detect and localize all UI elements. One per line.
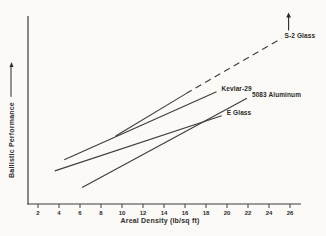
series-label-e-glass: E Glass <box>227 109 252 116</box>
plot-area: 2468101214161820222426 <box>0 0 326 236</box>
x-tick-label: 6 <box>78 210 82 216</box>
x-tick-label: 4 <box>57 210 61 216</box>
x-tick-label: 8 <box>99 210 103 216</box>
x-tick-label: 26 <box>287 210 294 216</box>
series-line-5083-aluminum <box>82 98 247 187</box>
x-tick-label: 16 <box>182 210 189 216</box>
x-tick-label: 18 <box>203 210 210 216</box>
series-label-kevlar-29: Kevlar-29 <box>222 85 252 92</box>
series-label-5083-aluminum: 5083 Aluminum <box>252 91 301 98</box>
x-axis-title: Areal Density (lb/sq ft) <box>0 217 320 224</box>
x-tick-label: 14 <box>161 210 168 216</box>
x-tick-label: 10 <box>119 210 126 216</box>
x-tick-label: 2 <box>36 210 40 216</box>
x-tick-label: 24 <box>266 210 273 216</box>
x-tick-label: 12 <box>140 210 147 216</box>
series-label-s-2-glass: S-2 Glass <box>285 32 316 39</box>
figure: 2468101214161820222426 S-2 GlassKevlar-2… <box>0 0 326 236</box>
y-axis-title-text: Ballistic Performance <box>8 102 15 178</box>
x-tick-label: 20 <box>224 210 231 216</box>
series-line-s-2-glass <box>116 94 186 136</box>
x-tick-label: 22 <box>245 210 252 216</box>
performance-direction-arrow-icon <box>9 62 13 97</box>
up-arrow-icon-head <box>286 12 291 17</box>
series-line-kevlar-29 <box>64 92 216 160</box>
series-line-e-glass <box>55 116 222 171</box>
